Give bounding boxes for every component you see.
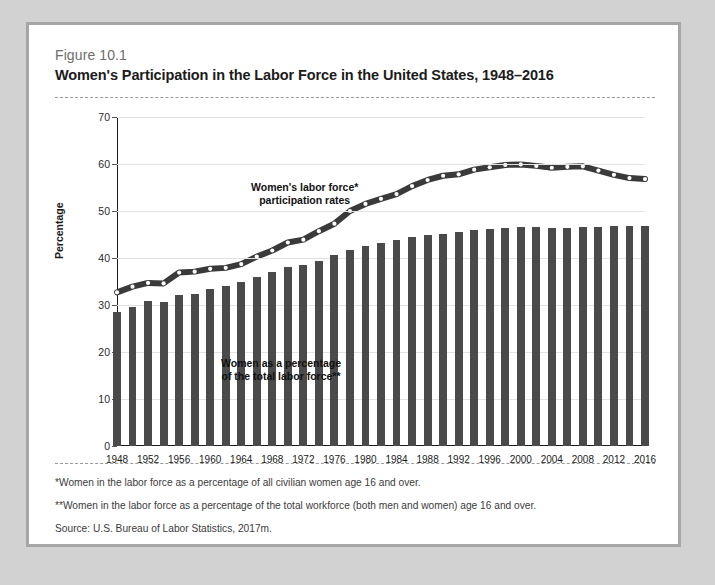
line-marker xyxy=(550,166,554,170)
bar xyxy=(191,294,199,446)
bar xyxy=(579,227,587,446)
bar xyxy=(517,227,525,446)
line-marker xyxy=(208,267,212,271)
annotation-line-series-line2: participation rates xyxy=(259,194,350,206)
y-axis-tick-label: 40 xyxy=(98,252,110,264)
gridline xyxy=(117,211,645,212)
bar xyxy=(563,228,571,446)
bar xyxy=(455,232,463,446)
line-marker xyxy=(332,222,336,226)
y-axis-tick-mark xyxy=(112,211,117,212)
bar xyxy=(532,227,540,446)
chart-area: Percentage 010203040506070 1948195219561… xyxy=(55,109,660,459)
y-axis-tick-mark xyxy=(112,117,117,118)
line-marker xyxy=(472,168,476,172)
line-marker xyxy=(301,238,305,242)
bar xyxy=(144,301,152,446)
bar xyxy=(486,229,494,446)
annotation-bar-series-line2: of the total labor force** xyxy=(222,370,341,382)
figure-title: Women's Participation in the Labor Force… xyxy=(55,67,554,83)
line-marker xyxy=(643,177,647,181)
note-double-asterisk: **Women in the labor force as a percenta… xyxy=(55,500,655,512)
bar xyxy=(206,289,214,446)
line-marker xyxy=(286,240,290,244)
bar xyxy=(113,312,121,446)
line-marker xyxy=(224,266,228,270)
annotation-bar-series: Women as a percentage of the total labor… xyxy=(221,357,341,383)
gridline xyxy=(117,117,645,118)
bar xyxy=(548,228,556,446)
bar xyxy=(501,228,509,446)
bar xyxy=(393,240,401,446)
bar xyxy=(470,230,478,446)
bar xyxy=(315,261,323,446)
y-axis-tick-mark xyxy=(112,258,117,259)
line-marker xyxy=(270,248,274,252)
annotation-line-series-line1: Women's labor force* xyxy=(251,181,358,193)
bar xyxy=(377,243,385,447)
bar xyxy=(641,226,649,446)
line-marker xyxy=(193,270,197,274)
line-marker xyxy=(130,285,134,289)
y-axis-tick-label: 70 xyxy=(98,111,110,123)
line-marker xyxy=(394,192,398,196)
divider-top xyxy=(55,97,655,98)
line-marker xyxy=(410,184,414,188)
gridline xyxy=(117,164,645,165)
line-marker xyxy=(177,270,181,274)
bar xyxy=(129,307,137,446)
bar xyxy=(330,255,338,446)
line-marker xyxy=(239,262,243,266)
bar xyxy=(299,265,307,446)
line-marker xyxy=(596,168,600,172)
annotation-bar-series-line1: Women as a percentage xyxy=(221,357,341,369)
figure-number: Figure 10.1 xyxy=(55,47,127,63)
bar xyxy=(610,226,618,446)
bar xyxy=(626,226,634,446)
y-axis-tick-mark xyxy=(112,305,117,306)
line-marker xyxy=(363,202,367,206)
line-marker xyxy=(146,281,150,285)
bar xyxy=(175,295,183,446)
bar xyxy=(594,227,602,446)
line-marker xyxy=(317,229,321,233)
line-marker xyxy=(161,281,165,285)
figure-notes: *Women in the labor force as a percentag… xyxy=(55,477,655,546)
line-marker xyxy=(627,176,631,180)
bar xyxy=(424,235,432,447)
plot-region: 010203040506070 xyxy=(117,117,645,446)
y-axis-tick-label: 50 xyxy=(98,205,110,217)
bar xyxy=(439,234,447,446)
note-asterisk: *Women in the labor force as a percentag… xyxy=(55,477,655,489)
y-axis-tick-label: 0 xyxy=(104,440,110,452)
annotation-line-series: Women's labor force* participation rates xyxy=(251,181,358,207)
line-marker xyxy=(379,197,383,201)
y-axis-tick-mark xyxy=(112,446,117,447)
line-marker xyxy=(425,178,429,182)
y-axis-label: Percentage xyxy=(53,202,65,259)
x-axis-tick-labels: 1948195219561960196419681972197619801984… xyxy=(117,454,645,470)
y-axis-tick-label: 30 xyxy=(98,299,110,311)
line-marker xyxy=(565,165,569,169)
bar xyxy=(160,302,168,446)
figure-card: Figure 10.1 Women's Participation in the… xyxy=(26,22,681,547)
line-marker xyxy=(488,165,492,169)
divider-bottom xyxy=(55,463,655,464)
bar xyxy=(408,237,416,446)
bar xyxy=(346,250,354,446)
y-axis-tick-mark xyxy=(112,164,117,165)
line-marker xyxy=(457,172,461,176)
line-marker xyxy=(612,173,616,177)
line-marker xyxy=(441,174,445,178)
y-axis-tick-label: 10 xyxy=(98,393,110,405)
y-axis-tick-label: 20 xyxy=(98,346,110,358)
source-line: Source: U.S. Bureau of Labor Statistics,… xyxy=(55,523,655,535)
y-axis-tick-label: 60 xyxy=(98,158,110,170)
bar xyxy=(362,246,370,446)
